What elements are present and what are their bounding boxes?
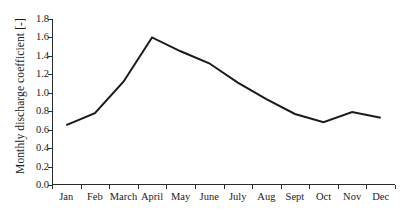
x-tick-label-nov: Nov bbox=[343, 191, 361, 203]
y-tick-label: 1.4 bbox=[36, 51, 49, 62]
y-tick-label: 0.4 bbox=[36, 143, 49, 154]
y-tick-label: 0.0 bbox=[36, 180, 49, 191]
x-tick-label-feb: Feb bbox=[87, 191, 103, 203]
x-tick-mark bbox=[338, 185, 339, 189]
y-axis-title: Monthly discharge coefficient [-] bbox=[13, 6, 27, 186]
line-series-monthly-discharge-coefficient bbox=[66, 37, 380, 125]
x-tick-label-sept: Sept bbox=[286, 191, 305, 203]
x-tick-mark bbox=[366, 185, 367, 189]
y-tick-label: 1.0 bbox=[36, 88, 49, 99]
x-tick-label-march: March bbox=[110, 191, 137, 203]
x-tick-mark bbox=[166, 185, 167, 189]
x-tick-mark bbox=[224, 185, 225, 189]
x-tick-mark bbox=[252, 185, 253, 189]
x-tick-mark bbox=[109, 185, 110, 189]
chart-figure: Monthly discharge coefficient [-] 0.00.2… bbox=[0, 0, 407, 219]
x-tick-mark bbox=[52, 185, 53, 189]
x-tick-label-april: April bbox=[141, 191, 163, 203]
x-tick-label-jan: Jan bbox=[59, 191, 73, 203]
y-tick-label: 0.2 bbox=[36, 161, 49, 172]
x-tick-mark bbox=[81, 185, 82, 189]
x-tick-mark bbox=[281, 185, 282, 189]
data-series-layer bbox=[52, 19, 395, 185]
x-tick-label-aug: Aug bbox=[257, 191, 275, 203]
x-tick-label-june: June bbox=[200, 191, 219, 203]
plot-area: 0.00.20.40.60.81.01.21.41.61.8 JanFebMar… bbox=[52, 19, 395, 185]
x-tick-label-may: May bbox=[171, 191, 190, 203]
x-tick-mark bbox=[309, 185, 310, 189]
x-tick-label-dec: Dec bbox=[372, 191, 389, 203]
x-tick-mark bbox=[395, 185, 396, 189]
y-tick-label: 0.6 bbox=[36, 124, 49, 135]
y-tick-label: 1.8 bbox=[36, 14, 49, 25]
x-tick-label-july: July bbox=[229, 191, 247, 203]
x-tick-mark bbox=[138, 185, 139, 189]
x-tick-label-oct: Oct bbox=[316, 191, 331, 203]
x-tick-mark bbox=[195, 185, 196, 189]
y-tick-label: 1.6 bbox=[36, 32, 49, 43]
y-tick-label: 0.8 bbox=[36, 106, 49, 117]
y-tick-label: 1.2 bbox=[36, 69, 49, 80]
